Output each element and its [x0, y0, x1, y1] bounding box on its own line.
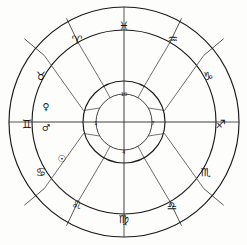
number-div-5	[104, 146, 110, 157]
house-cusp-5	[144, 158, 170, 202]
sign-glyph-gemini[interactable]: ♊	[22, 117, 32, 131]
sign-glyph-pisces[interactable]: ♓	[119, 19, 129, 33]
house-cusp-11	[144, 42, 170, 86]
sign-glyph-sagittarius[interactable]: ♐	[216, 117, 226, 131]
house-number-1[interactable]: 1	[94, 120, 97, 126]
house-number-7[interactable]: 7	[151, 120, 154, 126]
sign-glyph-virgo[interactable]: ♍	[119, 212, 129, 226]
sign-glyph-scorpio[interactable]: ♏	[201, 165, 211, 179]
astrology-chart-wheel: ♓ ♒ ♑ ♐ ♏ ♎ ♍ ♌ ♋ ♊ ♉ ♈ ♀ ♂ ☉ 10 1 7 4	[0, 0, 247, 245]
house-cusp-2	[44, 56, 83, 111]
sign-glyph-libra[interactable]: ♎	[167, 199, 177, 213]
planet-glyph-venus[interactable]: ♀	[43, 101, 50, 112]
house-number-10[interactable]: 10	[121, 91, 128, 97]
sign-glyph-cancer[interactable]: ♋	[36, 165, 46, 179]
sign-glyph-taurus[interactable]: ♉	[36, 69, 46, 83]
house-cusp-12-b	[78, 42, 104, 86]
sign-glyph-aquarius[interactable]: ♒	[168, 32, 178, 46]
house-cusp-6	[165, 134, 204, 189]
sign-glyph-aries[interactable]: ♈	[72, 33, 83, 47]
planet-glyph-sun[interactable]: ☉	[58, 153, 67, 164]
planet-glyphs: ♀ ♂ ☉	[42, 101, 67, 164]
number-div-1	[138, 86, 144, 97]
house-cusp-4-b	[78, 158, 104, 202]
house-cusp-12	[165, 56, 204, 111]
sign-glyph-leo[interactable]: ♌	[72, 198, 82, 212]
zodiac-wheel-svg: ♓ ♒ ♑ ♐ ♏ ♎ ♍ ♌ ♋ ♊ ♉ ♈ ♀ ♂ ☉ 10 1 7 4	[0, 0, 247, 245]
house-numbers: 10 1 7 4	[94, 91, 154, 155]
planet-glyph-mars[interactable]: ♂	[42, 122, 51, 133]
number-div-8	[104, 86, 110, 97]
number-div-4	[138, 146, 144, 157]
house-cusp-spokes	[32, 30, 216, 214]
sign-glyph-capricorn[interactable]: ♑	[203, 69, 213, 83]
